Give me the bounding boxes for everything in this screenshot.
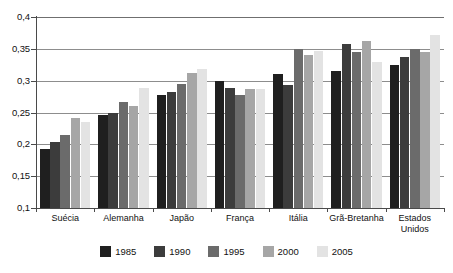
bar-group: [153, 17, 211, 208]
bar: [108, 113, 118, 209]
bar: [235, 95, 245, 208]
legend-swatch-icon: [208, 246, 219, 257]
bar: [60, 135, 70, 208]
legend-item[interactable]: 1985: [100, 246, 136, 257]
x-axis-category-label: Suécia: [36, 213, 94, 234]
x-axis-category-label: Alemanha: [94, 213, 152, 234]
y-axis-tick: [31, 144, 36, 145]
bar: [71, 118, 81, 208]
bar: [187, 73, 197, 208]
bar: [129, 106, 139, 209]
x-axis-tick: [153, 208, 154, 212]
bar: [157, 95, 167, 208]
y-axis-tick-label: 0,4: [2, 12, 30, 22]
y-axis-tick-label: 0,15: [2, 171, 30, 181]
bar-group: [94, 17, 152, 208]
x-axis-labels: SuéciaAlemanhaJapãoFrançaItáliaGrã-Breta…: [36, 213, 444, 234]
bar: [273, 74, 283, 208]
bar-chart: 0,10,150,20,250,30,350,4 SuéciaAlemanhaJ…: [0, 0, 453, 273]
bar: [294, 49, 304, 208]
bar: [98, 115, 108, 208]
x-axis-tick: [211, 208, 212, 212]
bar: [410, 49, 420, 208]
bar: [256, 89, 266, 208]
legend-item[interactable]: 1990: [154, 246, 190, 257]
legend-label: 1995: [223, 247, 244, 257]
x-axis-category-label: França: [211, 213, 269, 234]
x-axis-tick: [327, 208, 328, 212]
legend-swatch-icon: [154, 246, 165, 257]
bar: [400, 57, 410, 208]
y-axis-tick-label: 0,2: [2, 139, 30, 149]
bar-group: [327, 17, 385, 208]
y-axis-tick-label: 0,1: [2, 203, 30, 213]
y-axis-tick-label: 0,35: [2, 44, 30, 54]
bar: [372, 62, 382, 208]
bar: [215, 81, 225, 208]
bar: [197, 69, 207, 208]
bar-group: [269, 17, 327, 208]
y-axis-tick: [31, 113, 36, 114]
bar-group: [211, 17, 269, 208]
x-axis-category-label: Japão: [153, 213, 211, 234]
x-axis-category-label: Itália: [269, 213, 327, 234]
x-axis-line: [36, 208, 444, 209]
bar-group: [386, 17, 444, 208]
bar: [342, 44, 352, 208]
bar: [40, 149, 50, 208]
bar: [283, 85, 293, 208]
bar: [352, 52, 362, 208]
x-axis-tick: [36, 208, 37, 212]
bar-group: [36, 17, 94, 208]
x-axis-category-label: Grã-Bretanha: [327, 213, 385, 234]
chart-legend: 19851990199520002005: [0, 246, 453, 257]
legend-item[interactable]: 1995: [208, 246, 244, 257]
bar: [225, 88, 235, 208]
bar: [314, 51, 324, 208]
legend-swatch-icon: [317, 246, 328, 257]
y-axis-tick: [31, 81, 36, 82]
x-axis-tick: [269, 208, 270, 212]
legend-item[interactable]: 2005: [317, 246, 353, 257]
bar: [139, 88, 149, 208]
legend-label: 2000: [278, 247, 299, 257]
legend-label: 1990: [169, 247, 190, 257]
y-axis-tick: [31, 17, 36, 18]
bar: [245, 89, 255, 208]
bar: [304, 55, 314, 208]
y-axis-tick: [31, 208, 36, 209]
y-axis-labels: 0,10,150,20,250,30,350,4: [0, 0, 30, 273]
legend-label: 1985: [115, 247, 136, 257]
y-axis-tick: [31, 49, 36, 50]
y-axis-tick-label: 0,25: [2, 108, 30, 118]
bar: [177, 84, 187, 208]
x-axis-tick: [94, 208, 95, 212]
y-axis-tick-label: 0,3: [2, 76, 30, 86]
legend-label: 2005: [332, 247, 353, 257]
bar: [331, 71, 341, 208]
legend-swatch-icon: [100, 246, 111, 257]
y-axis-tick: [31, 176, 36, 177]
bar: [167, 92, 177, 209]
x-axis-category-label: Estados Unidos: [386, 213, 444, 234]
bar: [430, 35, 440, 208]
bar: [362, 41, 372, 208]
legend-swatch-icon: [263, 246, 274, 257]
bar: [119, 102, 129, 208]
x-axis-tick: [444, 208, 445, 212]
bar: [420, 52, 430, 208]
bar: [50, 142, 60, 208]
x-axis-tick: [386, 208, 387, 212]
legend-item[interactable]: 2000: [263, 246, 299, 257]
bar: [81, 122, 91, 208]
bar: [390, 65, 400, 208]
bar-groups: [36, 17, 444, 208]
